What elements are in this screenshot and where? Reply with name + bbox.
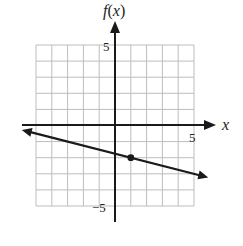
line-right-arrow-icon [197, 171, 208, 180]
axes [22, 21, 216, 222]
y-tick-neg5: −5 [92, 200, 106, 215]
x-tick-5: 5 [189, 130, 196, 145]
function-graph: f(x) x 5 5 −5 [0, 0, 243, 246]
y-tick-5: 5 [103, 39, 110, 54]
point-marker [127, 154, 134, 161]
x-axis-arrow-icon [204, 120, 216, 130]
line-left-arrow-icon [22, 128, 33, 137]
x-axis-label: x [221, 116, 229, 133]
y-axis-label: f(x) [103, 2, 125, 20]
y-axis-arrow-icon [110, 21, 120, 33]
